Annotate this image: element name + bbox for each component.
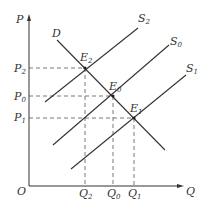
point-e1 — [132, 116, 135, 119]
labels: O P Q D P2 P0 P1 Q2 Q0 Q1 S2 S0 S1 E2 E0… — [13, 12, 198, 201]
y-axis-label: P — [15, 13, 24, 26]
supply-demand-diagram: O P Q D P2 P0 P1 Q2 Q0 Q1 S2 S0 S1 E2 E0… — [0, 0, 207, 207]
supply-curve-s1 — [71, 75, 186, 169]
demand-label: D — [51, 27, 61, 40]
origin-label: O — [17, 185, 26, 198]
y-axis-arrow-icon — [27, 14, 31, 21]
p0-label: P0 — [13, 90, 26, 104]
axes — [27, 14, 184, 188]
supply-curve-s0 — [53, 45, 169, 145]
q2-label: Q2 — [79, 187, 93, 201]
s2-label: S2 — [138, 12, 151, 26]
s1-label: S1 — [186, 62, 198, 76]
e1-label: E1 — [129, 102, 143, 116]
point-e2 — [83, 66, 86, 69]
p2-label: P2 — [13, 62, 26, 76]
curves — [45, 28, 186, 169]
x-axis-arrow-icon — [177, 184, 184, 188]
x-axis-label: Q — [186, 185, 195, 198]
s0-label: S0 — [170, 35, 183, 49]
q0-label: Q0 — [107, 187, 121, 201]
point-e0 — [111, 94, 114, 97]
e2-label: E2 — [79, 51, 93, 65]
e0-label: E0 — [108, 80, 122, 94]
p1-label: P1 — [13, 111, 26, 125]
q1-label: Q1 — [128, 187, 142, 201]
